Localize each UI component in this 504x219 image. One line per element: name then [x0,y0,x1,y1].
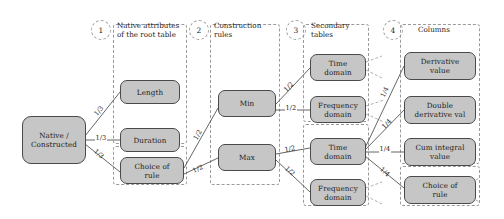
node-time-domain-1[interactable]: Time domain [310,54,366,81]
node-derivative-value[interactable]: Derivative value [404,52,476,80]
node-max[interactable]: Max [218,144,276,171]
node-frequency-domain-2[interactable]: Frequency domain [310,179,366,206]
node-frequency-domain-1[interactable]: Frequency domain [310,96,366,123]
node-choice-of-rule-1[interactable]: Choice of rule [120,157,184,184]
node-duration[interactable]: Duration [120,128,180,152]
column-marker-1: 1 [91,20,111,40]
column-marker-3-number: 3 [294,26,299,35]
node-min[interactable]: Min [218,90,276,117]
column-marker-3: 3 [286,20,306,40]
column-marker-2: 2 [189,20,209,40]
node-length[interactable]: Length [120,80,180,104]
edge-label-time-cum-integral: 1/4 [379,145,391,153]
column-marker-4: 4 [383,20,403,40]
node-native-constructed[interactable]: Native / Constructed [22,116,86,164]
node-time-domain-2[interactable]: Time domain [310,138,366,165]
edge-label-min-frequency-domain: 1/2 [285,104,297,112]
node-choice-of-rule-2[interactable]: Choice of rule [404,176,476,204]
diagram-canvas: 1 Native attributes of the root table 2 … [0,0,504,219]
edge-label-root-duration: 1/3 [95,134,107,142]
column-title-3: Secondary tables [311,22,377,39]
column-title-1: Native attributes of the root table [117,22,191,39]
node-cum-integral-value[interactable]: Cum integral value [404,138,476,166]
node-double-derivative-val[interactable]: Double derivative val [404,96,476,124]
column-marker-1-number: 1 [99,26,104,35]
column-marker-2-number: 2 [197,26,202,35]
column-title-4: Columns [418,26,478,35]
column-marker-4-number: 4 [391,26,396,35]
column-title-2: Construction rules [214,22,284,39]
